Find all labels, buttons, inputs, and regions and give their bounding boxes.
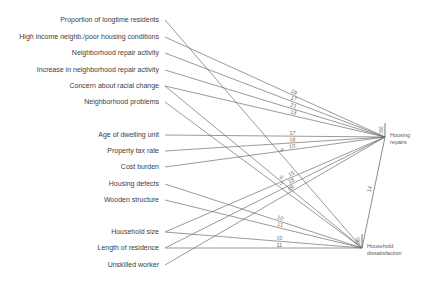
path-line: [165, 137, 385, 248]
path-coefficient: 11: [276, 242, 282, 248]
outcome-link-line: [362, 137, 385, 248]
r-squared-label: .306: [379, 126, 384, 135]
path-coefficient: 09: [287, 184, 295, 192]
path-line: [165, 102, 362, 248]
path-diagram: 919172113871718101011151018110914.306.38…: [0, 0, 441, 284]
outcome-label-line: repairs: [390, 139, 410, 146]
path-line: [165, 53, 385, 137]
path-coefficient: 10: [289, 143, 296, 150]
path-line: [165, 20, 362, 248]
path-coefficient: 18: [289, 136, 295, 142]
path-line: [165, 184, 362, 248]
outcome-label-line: dissatisfaction: [367, 250, 402, 257]
path-line: [165, 70, 385, 137]
outcome-label-repairs: Housingrepairs: [390, 132, 410, 146]
path-line: [165, 86, 385, 137]
path-line: [165, 135, 385, 137]
path-coefficient: 10: [276, 235, 283, 241]
path-line: [165, 232, 362, 248]
path-line: [165, 37, 385, 137]
outcome-label-line: Housing: [390, 132, 410, 139]
path-line: [165, 137, 385, 232]
path-coefficient: 17: [290, 130, 296, 136]
path-coefficient: 11: [277, 221, 284, 228]
path-line: [165, 137, 385, 151]
outcome-link-coefficient: 14: [366, 185, 373, 192]
r-squared-label: .385: [356, 237, 361, 246]
outcome-label-dissatisfaction: Householddissatisfaction: [367, 243, 402, 257]
path-line: [165, 137, 385, 167]
outcome-label-line: Household: [367, 243, 402, 250]
path-coefficient: 13: [290, 109, 297, 116]
